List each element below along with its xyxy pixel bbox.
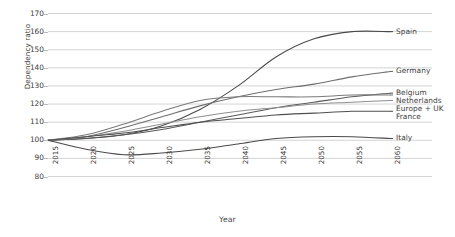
x-tick-label: 2030 [165,146,174,180]
x-tick-label: 2055 [355,146,364,180]
y-tick-dash [44,140,48,141]
series-line-france [48,111,390,140]
y-tick-dash [44,14,48,15]
x-tick-label: 2040 [241,146,250,180]
series-line-italy [48,136,390,154]
x-axis-title: Year [0,215,455,224]
y-tick-dash [44,68,48,69]
x-tick-label: 2050 [317,146,326,180]
series-label-france: France [396,113,421,120]
series-line-belgium [48,93,390,140]
y-tick-dash [44,32,48,33]
series-label-spain: Spain [396,28,417,35]
series-label-germany: Germany [396,67,430,74]
y-tick-dash [44,177,48,178]
x-tick-label: 2015 [51,146,60,180]
x-tick-label: 2035 [203,146,212,180]
y-tick-dash [44,86,48,87]
x-tick-label: 2020 [89,146,98,180]
series-line-germany [48,71,390,140]
y-tick-dash [44,122,48,123]
plot-area [0,0,455,237]
y-tick-dash [44,158,48,159]
x-tick-label: 2025 [127,146,136,180]
x-tick-label: 2045 [279,146,288,180]
y-tick-dash [44,50,48,51]
y-tick-dash [44,104,48,105]
chart-container: Dependency ratio 80901001101201301401501… [0,0,455,237]
series-label-italy: Italy [396,134,412,141]
x-tick-label: 2060 [393,146,402,180]
